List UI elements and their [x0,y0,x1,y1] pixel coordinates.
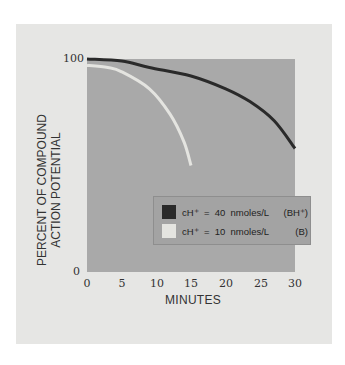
x-tick-30: 30 [285,277,305,290]
series-bh-line [87,59,295,149]
legend-tag: (BH⁺) [283,207,308,218]
y-axis-label: PERCENT OF COMPOUND ACTION POTENTIAL [35,90,63,290]
y-axis-label-line2: ACTION POTENTIAL [49,90,63,290]
legend: cH⁺ = 40 nmoles/L (BH⁺) cH⁺ = 10 nmoles/… [153,196,311,245]
legend-swatch-light [162,224,176,238]
legend-label: cH⁺ = 40 nmoles/L [182,207,283,218]
legend-tag: (B) [295,226,308,237]
y-axis-label-line1: PERCENT OF COMPOUND [35,90,49,290]
legend-item-bh: cH⁺ = 40 nmoles/L (BH⁺) [162,205,308,219]
x-tick-10: 10 [147,277,167,290]
x-tick-15: 15 [181,277,201,290]
y-tick-100: 100 [63,52,84,65]
x-tick-0: 0 [77,277,97,290]
series-b-line [87,65,191,165]
x-tick-20: 20 [216,277,236,290]
legend-item-b: cH⁺ = 10 nmoles/L (B) [162,224,308,238]
x-axis-label: MINUTES [165,293,221,307]
x-tick-25: 25 [251,277,271,290]
legend-swatch-dark [162,205,176,219]
x-tick-5: 5 [112,277,132,290]
legend-label: cH⁺ = 10 nmoles/L [182,226,295,237]
